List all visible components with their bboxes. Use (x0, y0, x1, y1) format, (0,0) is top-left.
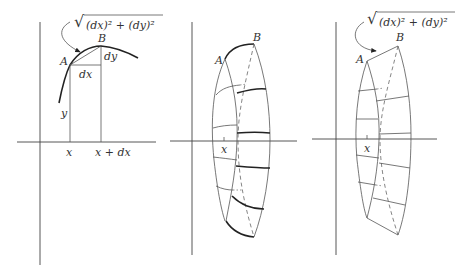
section-3-front (236, 166, 270, 168)
section-3-left (356, 155, 379, 158)
section-4-front (373, 198, 405, 205)
label-b: B (395, 31, 404, 44)
label-b: B (97, 32, 106, 45)
section-3-left (213, 157, 237, 160)
label-a: A (214, 54, 223, 67)
label-x: x (364, 142, 371, 155)
section-4-hidden (376, 185, 383, 186)
label-dy: dy (104, 50, 118, 63)
label-a: A (355, 53, 364, 66)
diagram-canvas: √ (dx)² + (dy)² B A dy dx y x x + dx (0, 0, 469, 267)
band-left-inner (367, 61, 379, 218)
section-2-front (379, 133, 411, 134)
sqrt-symbol: √ (74, 12, 85, 31)
label-y: y (60, 107, 68, 120)
band-left-outer (212, 59, 225, 221)
band-left-inner (225, 59, 237, 221)
section-1-hidden (240, 84, 247, 85)
curve (59, 46, 138, 103)
section-4-left (216, 186, 233, 190)
section-2-front (237, 132, 270, 133)
band-left-outer (356, 61, 367, 218)
panel-frustum-band: √ (dx)² + (dy)² B A x (312, 9, 455, 255)
label-x: x (66, 146, 73, 159)
section-1-left (216, 85, 240, 95)
section-4-left (358, 182, 376, 185)
chord-ab (367, 46, 398, 61)
panel-curved-band: B A x (170, 22, 297, 255)
band-right-outer (398, 46, 411, 235)
section-2-left (213, 125, 237, 128)
label-x-plus-dx: x + dx (95, 146, 131, 159)
section-1-front (376, 96, 409, 101)
arc-bottom (226, 221, 254, 237)
section-1-left (358, 89, 377, 91)
label-x: x (221, 143, 228, 156)
label-b: B (252, 31, 261, 44)
label-a: A (59, 55, 68, 68)
section-1-hidden (377, 88, 384, 89)
arc-ab (225, 44, 254, 59)
section-3-front (379, 163, 410, 168)
sqrt-symbol: √ (367, 9, 378, 28)
hidden-chord (380, 46, 398, 235)
section-1-front (237, 89, 266, 93)
formula-text: (dx)² + (dy)² (86, 19, 155, 32)
panel-arc-length: √ (dx)² + (dy)² B A dy dx y x x + dx (17, 12, 163, 265)
label-dx: dx (79, 68, 93, 81)
formula-text: (dx)² + (dy)² (379, 16, 448, 29)
section-4-front (232, 196, 264, 209)
